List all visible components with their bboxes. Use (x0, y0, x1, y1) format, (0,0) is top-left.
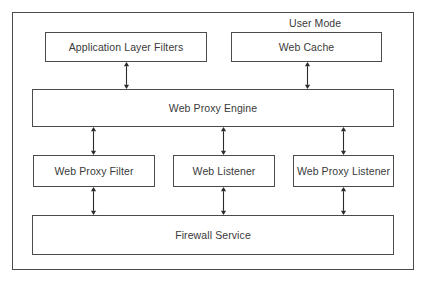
node-label-web-proxy-listener: Web Proxy Listener (297, 166, 390, 177)
user-mode-label: User Mode (289, 17, 341, 29)
node-firewall-service[interactable]: Firewall Service (32, 215, 394, 255)
diagram-canvas: User Mode Application Layer FiltersWeb C… (0, 0, 426, 282)
node-application-layer-filters[interactable]: Application Layer Filters (45, 32, 207, 62)
node-web-listener[interactable]: Web Listener (173, 155, 275, 187)
node-web-proxy-engine[interactable]: Web Proxy Engine (32, 89, 394, 127)
node-web-proxy-listener[interactable]: Web Proxy Listener (293, 155, 394, 187)
node-label-web-cache: Web Cache (279, 42, 335, 53)
node-web-proxy-filter[interactable]: Web Proxy Filter (33, 155, 155, 187)
node-label-firewall-service: Firewall Service (175, 230, 251, 241)
node-label-web-proxy-filter: Web Proxy Filter (54, 166, 133, 177)
node-web-cache[interactable]: Web Cache (231, 32, 382, 62)
node-label-web-proxy-engine: Web Proxy Engine (169, 103, 257, 114)
node-label-application-layer-filters: Application Layer Filters (69, 42, 184, 53)
node-label-web-listener: Web Listener (193, 166, 256, 177)
